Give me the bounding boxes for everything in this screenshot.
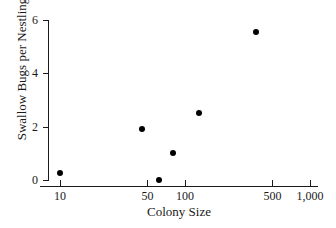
y-axis-title: Swallow Bugs per Nestling [15, 0, 29, 157]
data-point [170, 150, 176, 156]
data-point [196, 110, 202, 116]
y-tick-label: 0 [18, 174, 38, 186]
data-point [156, 177, 162, 183]
x-tick-label: 1,000 [287, 190, 333, 202]
x-tick-mark [272, 180, 273, 186]
x-tick-mark [147, 180, 148, 186]
x-axis-line [40, 186, 318, 187]
x-tick-mark [185, 180, 186, 186]
x-tick-label: 100 [162, 190, 208, 202]
data-point [139, 126, 145, 132]
x-axis-title: Colony Size [48, 205, 310, 219]
y-tick-mark [43, 180, 48, 181]
data-point [57, 170, 63, 176]
scatter-plot-figure: 0246 10501005001,000 Swallow Bugs per Ne… [0, 0, 336, 228]
x-tick-mark [310, 180, 311, 186]
x-tick-mark [60, 180, 61, 186]
data-point [253, 29, 259, 35]
x-tick-label: 10 [37, 190, 83, 202]
plot-area [48, 20, 310, 180]
